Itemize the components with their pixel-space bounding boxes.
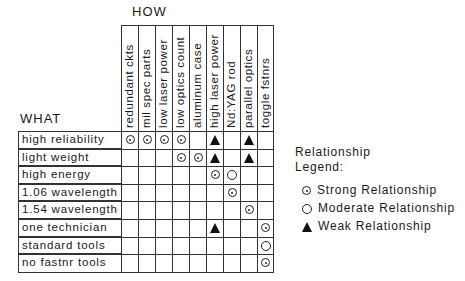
column-header: redundant ckts — [121, 25, 138, 131]
matrix-cell — [121, 201, 138, 219]
weak-relationship-icon — [302, 222, 312, 232]
matrix-cell — [172, 184, 189, 201]
matrix-cell — [138, 201, 155, 219]
matrix-cell — [206, 237, 223, 254]
matrix-cell — [223, 166, 240, 184]
matrix-cell — [138, 184, 155, 201]
moderate-relationship-icon — [227, 170, 237, 180]
strong-relationship-icon — [160, 135, 169, 144]
column-header-label: mil spec parts — [140, 49, 153, 128]
matrix-cell — [172, 166, 189, 184]
matrix-cell — [172, 254, 189, 273]
column-header-label: toggle fstnrs — [259, 58, 272, 128]
matrix-cell — [240, 149, 257, 166]
matrix-cell — [206, 131, 223, 149]
matrix-cell — [138, 219, 155, 237]
column-header: mil spec parts — [138, 25, 155, 131]
matrix-cell — [223, 254, 240, 273]
matrix-cell — [121, 184, 138, 201]
matrix-cell — [121, 166, 138, 184]
moderate-relationship-icon — [261, 241, 271, 251]
matrix-cell — [138, 166, 155, 184]
legend-title-line2: Legend: — [295, 160, 371, 175]
matrix-cell — [189, 219, 206, 237]
matrix-cell — [257, 166, 274, 184]
legend-title-line1: Relationship — [295, 145, 371, 160]
row-label: high energy — [18, 166, 121, 184]
legend-title: Relationship Legend: — [295, 145, 371, 175]
strong-relationship-icon — [245, 205, 254, 214]
column-header: low laser power — [155, 25, 172, 131]
matrix-cell — [121, 131, 138, 149]
column-header: low optics count — [172, 25, 189, 131]
column-header: Nd:YAG rod — [223, 25, 240, 131]
column-header-label: parallel optics — [242, 49, 255, 128]
matrix-cell — [155, 219, 172, 237]
matrix-cell — [240, 254, 257, 273]
matrix-cell — [223, 149, 240, 166]
column-header-label: Nd:YAG rod — [225, 61, 238, 128]
column-header-label: redundant ckts — [123, 44, 136, 128]
matrix-cell — [240, 131, 257, 149]
matrix-cell — [223, 201, 240, 219]
strong-relationship-icon — [177, 153, 186, 162]
matrix-cell — [189, 254, 206, 273]
legend-item-weak: Weak Relationship — [302, 219, 431, 233]
matrix-cell — [257, 131, 274, 149]
matrix-cell — [223, 219, 240, 237]
matrix-cell — [155, 254, 172, 273]
matrix-cell — [138, 254, 155, 273]
matrix-cell — [189, 166, 206, 184]
moderate-relationship-icon — [302, 204, 312, 214]
strong-relationship-icon — [126, 135, 135, 144]
matrix-cell — [155, 131, 172, 149]
matrix-cell — [206, 254, 223, 273]
matrix-cell — [240, 237, 257, 254]
row-label: no fastnr tools — [18, 254, 121, 273]
weak-relationship-icon — [244, 153, 254, 163]
how-label: HOW — [132, 4, 167, 19]
weak-relationship-icon — [210, 135, 220, 145]
matrix-cell — [155, 149, 172, 166]
row-label: standard tools — [18, 237, 121, 254]
matrix-cell — [206, 149, 223, 166]
legend-label: Weak Relationship — [318, 219, 431, 233]
weak-relationship-icon — [244, 135, 254, 145]
matrix-cell — [257, 201, 274, 219]
matrix-cell — [121, 149, 138, 166]
matrix-cell — [172, 149, 189, 166]
matrix-cell — [172, 201, 189, 219]
matrix-cell — [189, 201, 206, 219]
strong-relationship-icon — [143, 135, 152, 144]
what-label: WHAT — [20, 111, 61, 126]
matrix-cell — [223, 237, 240, 254]
matrix-cell — [257, 184, 274, 201]
column-header: aluminum case — [189, 25, 206, 131]
column-header: high laser power — [206, 25, 223, 131]
matrix-cell — [189, 131, 206, 149]
matrix-cell — [138, 149, 155, 166]
column-header-label: aluminum case — [191, 43, 204, 128]
matrix-cell — [223, 131, 240, 149]
matrix-cell — [257, 219, 274, 237]
strong-relationship-icon — [211, 170, 220, 179]
matrix-cell — [206, 166, 223, 184]
strong-relationship-icon — [177, 135, 186, 144]
legend-item-strong: Strong Relationship — [302, 183, 437, 197]
matrix-cell — [155, 166, 172, 184]
matrix-cell — [121, 237, 138, 254]
matrix-cell — [172, 237, 189, 254]
matrix-cell — [189, 184, 206, 201]
strong-relationship-icon — [194, 153, 203, 162]
matrix-cell — [121, 254, 138, 273]
column-header-label: high laser power — [208, 34, 221, 128]
row-label: high reliability — [18, 131, 121, 149]
column-header: toggle fstnrs — [257, 25, 274, 131]
matrix-cell — [155, 201, 172, 219]
row-label: 1.06 wavelength — [18, 184, 121, 201]
matrix-cell — [240, 219, 257, 237]
matrix-cell — [189, 149, 206, 166]
matrix-cell — [206, 219, 223, 237]
matrix-cell — [257, 254, 274, 273]
matrix-cell — [223, 184, 240, 201]
